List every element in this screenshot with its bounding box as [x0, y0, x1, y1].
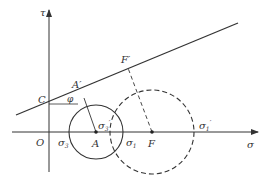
- sigma1-prime-label: σ1′: [199, 119, 212, 132]
- sigma3-prime-label: σ3′: [98, 119, 111, 132]
- point-c-label: C: [38, 94, 46, 105]
- radius-a-line: [84, 98, 96, 132]
- point-a-prime-label: A′: [71, 79, 82, 90]
- point-f-prime-label: F′: [120, 54, 131, 65]
- origin-label: O: [36, 137, 44, 148]
- point-f-label: F: [147, 138, 156, 149]
- sigma-axis-label: σ: [247, 139, 255, 150]
- point-a-label: A: [91, 138, 99, 149]
- angle-phi-label: φ: [67, 94, 74, 104]
- point-f: [150, 130, 154, 134]
- sigma3-label: σ3: [58, 137, 69, 149]
- sigma1-label: σ1: [126, 137, 137, 149]
- diagram-canvas: τ σ O C A′ F′ A F φ σ3 σ1 σ3′ σ1′: [0, 0, 264, 185]
- mohr-circle-diagram: τ σ O C A′ F′ A F φ σ3 σ1 σ3′ σ1′: [0, 0, 264, 185]
- radius-f-line: [128, 68, 152, 132]
- tau-axis-label: τ: [40, 7, 46, 18]
